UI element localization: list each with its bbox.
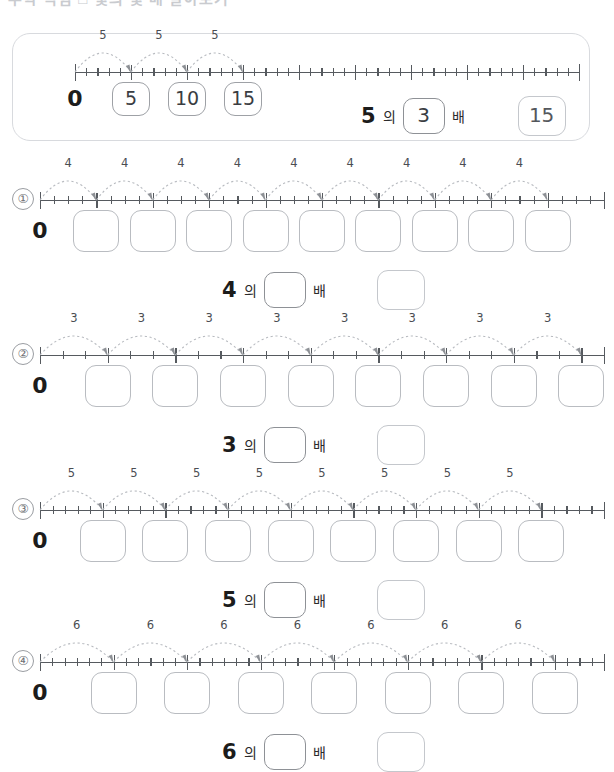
example-result-input[interactable]: 15 [518,96,566,136]
problem-2-hop-arcs [40,323,593,359]
example-tick [400,68,401,76]
problem-1-hop-label: 4 [290,156,297,170]
example-tick [277,68,278,76]
problem-1-value-box[interactable] [412,210,458,252]
example-value-box[interactable]: 10 [168,82,206,116]
example-value-box[interactable]: 5 [112,82,150,116]
problem-3-hop-label: 5 [506,466,513,480]
problem-1-tick [576,196,577,204]
example-tick [456,68,457,76]
problem-3-value-box[interactable] [330,520,376,562]
problem-3-tick [579,506,580,514]
problem-3-value-box[interactable] [268,520,314,562]
example-hop-arcs [75,40,255,76]
example-equation-particle-times: 배 [452,106,465,126]
problem-1-result-input[interactable] [377,270,425,310]
problem-3-equation-base: 5 [222,588,237,612]
problem-3-value-box[interactable] [142,520,188,562]
example-tick [568,68,569,76]
problem-3-value-box[interactable] [456,520,502,562]
example-value-box[interactable]: 15 [224,82,262,116]
problem-4-value-box[interactable] [311,672,357,714]
problem-4-multiplier-input[interactable] [264,734,306,770]
problem-4-result-input[interactable] [377,732,425,772]
problem-4-tick [592,658,593,666]
problem-4-equation-particle-times: 배 [313,742,326,762]
problem-2-value-box[interactable] [288,365,334,407]
example-tick [445,68,446,76]
problem-2-value-box[interactable] [152,365,198,407]
problem-4-tick [604,654,605,671]
problem-1-value-box[interactable] [130,210,176,252]
problem-2-value-box[interactable] [491,365,537,407]
problem-3-multiplier-input[interactable] [264,582,306,618]
problem-1-hop-arcs [40,168,560,204]
example-tick [411,65,412,80]
problem-4-value-box[interactable] [458,672,504,714]
problem-4-equation: 6의배 [222,732,425,772]
problem-4-zero-label: 0 [32,680,47,705]
problem-2-equation-base: 3 [222,433,237,457]
problem-4-value-box[interactable] [238,672,284,714]
problem-4-hop-label: 6 [147,618,154,632]
problem-3-result-input[interactable] [377,580,425,620]
problem-index-3: ③ [12,498,34,520]
problem-1-value-box[interactable] [186,210,232,252]
problem-2-equation-particle-times: 배 [313,435,326,455]
problem-4-hop-label: 6 [73,618,80,632]
problem-index-1: ① [12,188,34,210]
problem-4-hop-arcs [40,630,567,666]
example-tick [489,68,490,76]
problem-4-tick [579,658,580,666]
example-tick [288,68,289,76]
problem-1-value-box[interactable] [73,210,119,252]
problem-4-value-box[interactable] [385,672,431,714]
problem-1-equation-particle-times: 배 [313,280,326,300]
problem-2-hop-label: 3 [206,311,213,325]
problem-2-result-input[interactable] [377,425,425,465]
problem-1-equation-base: 4 [222,278,237,302]
problem-2-value-box[interactable] [85,365,131,407]
problem-1-multiplier-input[interactable] [264,272,306,308]
problem-3-value-box[interactable] [393,520,439,562]
problem-3-hop-label: 5 [444,466,451,480]
example-multiplier-input[interactable]: 3 [403,98,445,134]
problem-2-value-box[interactable] [423,365,469,407]
problem-1-value-box[interactable] [299,210,345,252]
problem-4-value-box[interactable] [532,672,578,714]
problem-2-value-box[interactable] [355,365,401,407]
problem-3-tick [591,506,592,514]
example-tick [433,68,434,76]
example-zero-label: 0 [67,86,82,111]
problem-3-value-box[interactable] [80,520,126,562]
problem-1-value-box[interactable] [525,210,571,252]
problem-1-value-box[interactable] [243,210,289,252]
problem-1-hop-label: 4 [516,156,523,170]
example-tick [467,65,468,80]
problem-3-value-box[interactable] [205,520,251,562]
problem-4-value-box[interactable] [91,672,137,714]
problem-4-value-box[interactable] [164,672,210,714]
problem-3-hop-label: 5 [68,466,75,480]
problem-1-hop-label: 4 [177,156,184,170]
problem-1-zero-label: 0 [32,218,47,243]
problem-1-value-box[interactable] [355,210,401,252]
problem-3-tick [566,506,567,514]
problem-3-equation: 5의배 [222,580,425,620]
problem-2-value-box[interactable] [558,365,604,407]
problem-row-2: ②3333333303의배 [0,315,614,465]
problem-4-equation-particle-of: 의 [244,742,257,762]
problem-3-hop-label: 5 [130,466,137,480]
problem-4-hop-label: 6 [367,618,374,632]
problem-2-value-box[interactable] [220,365,266,407]
example-tick [265,68,266,76]
example-tick [377,68,378,76]
problem-2-multiplier-input[interactable] [264,427,306,463]
example-container: 5550510155의3배15 [12,33,590,141]
problem-3-zero-label: 0 [32,528,47,553]
problem-1-value-box[interactable] [468,210,514,252]
problem-3-value-box[interactable] [518,520,564,562]
problem-row-4: ④666666606의배 [0,622,614,772]
example-tick [344,68,345,76]
example-hop-label: 5 [99,28,106,42]
